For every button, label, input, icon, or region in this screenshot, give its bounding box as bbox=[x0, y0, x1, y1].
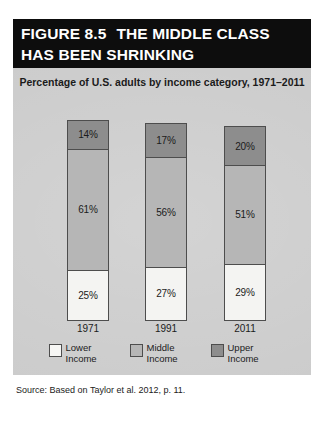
bar-segment-upper-1971: 14% bbox=[67, 120, 109, 149]
stacked-bar-1971: 14% 61% 25% bbox=[67, 120, 109, 321]
figure-title-bar: FIGURE 8.5THE MIDDLE CLASS HAS BEEN SHRI… bbox=[13, 19, 311, 68]
legend-item-upper-income: Upper Income bbox=[211, 342, 276, 370]
bar-segment-label: 56% bbox=[156, 207, 176, 218]
bar-segment-lower-1971: 25% bbox=[67, 270, 109, 321]
chart-legend: Lower Income Middle Income Upper Income bbox=[13, 342, 311, 370]
source-strip: Source: Based on Taylor et al. 2012, p. … bbox=[13, 375, 311, 405]
figure-card: FIGURE 8.5THE MIDDLE CLASS HAS BEEN SHRI… bbox=[13, 19, 311, 405]
plot-area: 14% 61% 25% 17% 56% 27% bbox=[13, 116, 311, 321]
bar-segment-label: 27% bbox=[156, 288, 176, 299]
x-axis-tick-labels: 1971 1991 2011 bbox=[13, 323, 311, 337]
bar-segment-lower-1991: 27% bbox=[145, 267, 187, 321]
legend-label: Lower Income bbox=[66, 342, 114, 364]
bar-segment-middle-1991: 56% bbox=[145, 157, 187, 267]
legend-item-lower-income: Lower Income bbox=[49, 342, 114, 370]
x-axis-tick-1991: 1991 bbox=[145, 323, 187, 334]
bar-segment-label: 25% bbox=[78, 290, 98, 301]
bar-segment-label: 29% bbox=[235, 287, 255, 298]
bar-segment-lower-2011: 29% bbox=[224, 264, 266, 321]
source-note: Source: Based on Taylor et al. 2012, p. … bbox=[13, 385, 185, 395]
bar-segment-label: 17% bbox=[156, 135, 176, 146]
figure-number-label: FIGURE 8.5 bbox=[21, 25, 106, 42]
legend-swatch-icon bbox=[49, 344, 62, 357]
chart-title: Percentage of U.S. adults by income cate… bbox=[13, 76, 311, 89]
bar-segment-label: 20% bbox=[235, 141, 255, 152]
legend-label: Upper Income bbox=[228, 342, 276, 364]
stacked-bar-1991: 17% 56% 27% bbox=[145, 123, 187, 321]
chart-panel: Percentage of U.S. adults by income cate… bbox=[13, 68, 311, 375]
legend-item-middle-income: Middle Income bbox=[130, 342, 195, 370]
bar-segment-middle-2011: 51% bbox=[224, 165, 266, 263]
figure-title-line: FIGURE 8.5THE MIDDLE CLASS HAS BEEN SHRI… bbox=[21, 23, 303, 65]
legend-label: Middle Income bbox=[147, 342, 195, 364]
x-axis-tick-1971: 1971 bbox=[67, 323, 109, 334]
bar-segment-upper-2011: 20% bbox=[224, 126, 266, 165]
legend-swatch-icon bbox=[211, 344, 224, 357]
bar-segment-middle-1971: 61% bbox=[67, 149, 109, 270]
bar-segment-label: 61% bbox=[78, 204, 98, 215]
bar-segment-label: 14% bbox=[78, 129, 98, 140]
x-axis-tick-2011: 2011 bbox=[224, 323, 266, 334]
stacked-bar-2011: 20% 51% 29% bbox=[224, 126, 266, 321]
legend-swatch-icon bbox=[130, 344, 143, 357]
bar-segment-upper-1991: 17% bbox=[145, 123, 187, 157]
bar-segment-label: 51% bbox=[235, 209, 255, 220]
